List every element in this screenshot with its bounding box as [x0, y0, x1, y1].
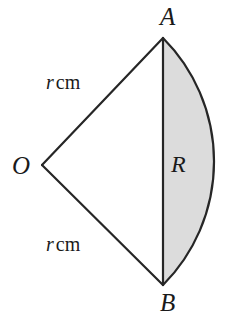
radius-measure-bottom: rcm	[46, 234, 80, 254]
geometry-figure: A B O R rcm rcm	[0, 0, 229, 327]
region-label-r: R	[171, 152, 186, 176]
radius-measure-top: rcm	[46, 72, 80, 92]
figure-canvas	[0, 0, 229, 327]
radius-symbol-bottom: r	[46, 233, 54, 255]
radius-unit-top: cm	[56, 71, 80, 93]
vertex-label-o: O	[12, 153, 30, 178]
radius-symbol-top: r	[46, 71, 54, 93]
vertex-label-a: A	[160, 4, 175, 29]
vertex-label-b: B	[160, 290, 175, 315]
radius-unit-bottom: cm	[56, 233, 80, 255]
